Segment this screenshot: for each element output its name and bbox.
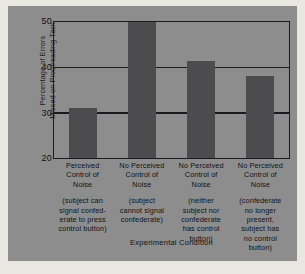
y-axis-tick-30: 30 xyxy=(34,108,52,118)
x-category-1-head: Perceived Control of Noise xyxy=(54,161,111,189)
bar-slot-4 xyxy=(230,22,289,158)
y-axis-tick-50: 50 xyxy=(34,16,52,26)
bar-perceived-control[interactable] xyxy=(69,108,97,158)
x-category-2-head: No Perceived Control of Noise xyxy=(113,161,170,189)
bars-container xyxy=(54,22,289,158)
y-axis-tick-labels: 50 40 30 20 xyxy=(30,6,52,261)
x-axis-title: Experimental Condition xyxy=(53,238,290,247)
x-category-4-head: No Perceived Control of Noise xyxy=(232,161,289,189)
bar-no-perceived-neither-control[interactable] xyxy=(187,61,215,158)
y-axis-tick-20: 20 xyxy=(34,153,52,163)
screenshot-root: Percentage of Errors Missed on Proofread… xyxy=(0,0,305,274)
x-category-3-sub: (neither subject nor confederate has con… xyxy=(173,196,230,243)
bar-slot-2 xyxy=(113,22,172,158)
plot-area xyxy=(53,21,290,159)
x-category-1-sub: (subject can signal confed- erate to pre… xyxy=(54,196,111,234)
bar-no-perceived-confederate-absent[interactable] xyxy=(246,76,274,158)
y-axis-tick-40: 40 xyxy=(34,62,52,72)
bar-slot-1 xyxy=(54,22,113,158)
x-category-2-sub: (subject cannot signal confederate) xyxy=(113,196,170,224)
bar-no-perceived-cannot-signal[interactable] xyxy=(128,22,156,158)
bar-slot-3 xyxy=(172,22,231,158)
bar-chart-figure: Percentage of Errors Missed on Proofread… xyxy=(8,6,297,261)
x-category-3-head: No Perceived Control of Noise xyxy=(173,161,230,189)
